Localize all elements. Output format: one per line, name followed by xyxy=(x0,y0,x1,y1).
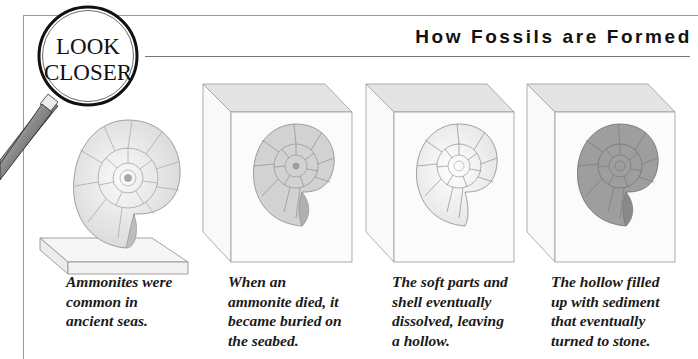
caption-line: turned to stone. xyxy=(551,331,660,351)
caption-line: The hollow filled xyxy=(551,272,660,292)
step-2-illustration xyxy=(203,84,352,262)
look-closer-badge-line1: LOOK xyxy=(38,34,138,60)
caption-line: Ammonites were xyxy=(66,272,172,292)
caption-line: that eventually xyxy=(551,311,660,331)
caption-line: the seabed. xyxy=(228,331,342,351)
caption-line: ancient seas. xyxy=(66,311,172,331)
caption-line: became buried on xyxy=(228,311,342,331)
step-3-caption: The soft parts and shell eventually diss… xyxy=(392,272,508,350)
caption-line: The soft parts and xyxy=(392,272,508,292)
caption-line: dissolved, leaving xyxy=(392,311,508,331)
caption-line: ammonite died, it xyxy=(228,292,342,312)
caption-line: up with sediment xyxy=(551,292,660,312)
step-4-illustration xyxy=(527,84,675,262)
look-closer-badge-line2: CLOSER xyxy=(38,60,138,86)
caption-line: common in xyxy=(66,292,172,312)
caption-line: a hollow. xyxy=(392,331,508,351)
step-4-caption: The hollow filled up with sediment that … xyxy=(551,272,660,350)
caption-line: When an xyxy=(228,272,342,292)
step-1-caption: Ammonites were common in ancient seas. xyxy=(66,272,172,331)
caption-line: shell eventually xyxy=(392,292,508,312)
step-2-caption: When an ammonite died, it became buried … xyxy=(228,272,342,350)
step-3-illustration xyxy=(366,84,514,262)
step-1-illustration xyxy=(40,120,188,274)
